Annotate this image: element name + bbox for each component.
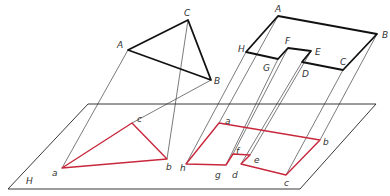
- triangle-projector-a: [62, 50, 128, 168]
- l-shape-object-outline: [246, 16, 377, 70]
- l-shape-projector-b: [320, 34, 377, 140]
- projector-lines: [62, 16, 377, 175]
- l-shape-vertex-label-upper-b: B: [382, 30, 388, 40]
- vertex-labels: HACBabcABCDEFGHabcdefgh: [26, 4, 388, 188]
- triangle-vertex-label-upper-c: C: [184, 8, 191, 18]
- l-shape-projector-f: [233, 48, 288, 154]
- l-shape-vertex-label-lower-e: e: [254, 155, 260, 165]
- l-shape-vertex-label-lower-h: h: [180, 163, 186, 173]
- triangle-vertex-label-lower-a: a: [52, 168, 58, 178]
- l-shape-vertex-label-lower-c: c: [284, 178, 289, 188]
- triangle-vertex-label-lower-b: b: [166, 162, 172, 172]
- triangle-object-outline: [128, 20, 211, 80]
- triangle-projector-b: [132, 80, 211, 123]
- triangle-projection-outline: [62, 123, 167, 168]
- l-shape-vertex-label-lower-d: d: [232, 170, 238, 180]
- l-shape-vertex-label-lower-a: a: [225, 116, 231, 126]
- l-shape-vertex-label-lower-b: b: [323, 137, 329, 147]
- l-shape-vertex-label-upper-d: D: [302, 69, 309, 79]
- plane-outline: [8, 104, 376, 189]
- projections: [62, 123, 320, 175]
- orthogonal-projection-diagram: HACBabcABCDEFGHabcdefgh: [0, 0, 390, 196]
- triangle-vertex-label-lower-c: c: [137, 114, 142, 124]
- triangle-vertex-label-upper-b: B: [214, 76, 220, 86]
- l-shape-vertex-label-upper-a: A: [274, 4, 281, 14]
- l-shape-vertex-label-upper-h: H: [238, 44, 245, 54]
- l-shape-vertex-label-lower-g: g: [215, 170, 221, 180]
- objects: [128, 16, 377, 80]
- triangle-vertex-label-upper-a: A: [116, 40, 123, 50]
- l-shape-projector-c: [286, 70, 343, 175]
- l-shape-vertex-label-upper-c: C: [340, 57, 347, 67]
- l-shape-projector-d: [241, 62, 302, 164]
- triangle-projector-c: [167, 20, 188, 159]
- projection-plane-h: [8, 104, 376, 189]
- l-shape-vertex-label-upper-f: F: [285, 36, 291, 46]
- l-shape-vertex-label-upper-g: G: [263, 63, 270, 73]
- l-shape-vertex-label-upper-e: E: [315, 47, 321, 57]
- plane-label: H: [26, 176, 33, 186]
